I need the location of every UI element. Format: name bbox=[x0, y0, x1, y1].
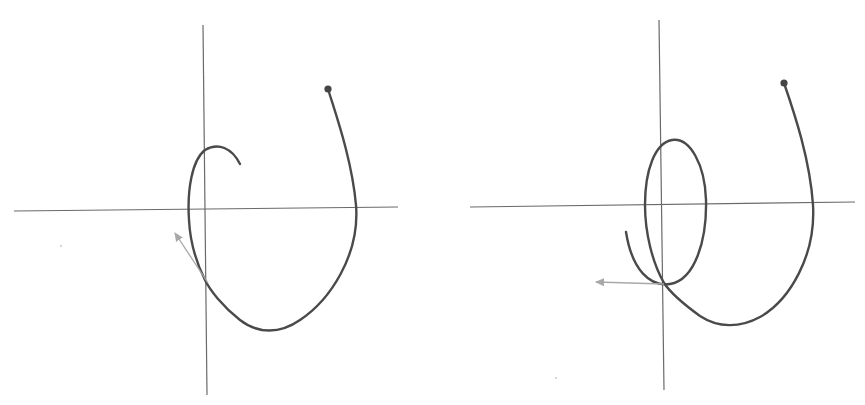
right-start-dot bbox=[780, 79, 787, 86]
left-start-dot bbox=[324, 85, 331, 92]
right-curve-inner-loop bbox=[626, 140, 706, 285]
right-speck bbox=[555, 377, 557, 379]
left-panel bbox=[14, 25, 398, 395]
right-panel bbox=[470, 20, 855, 390]
left-y-axis bbox=[203, 25, 207, 395]
right-x-axis bbox=[470, 202, 855, 207]
left-x-axis bbox=[14, 207, 398, 211]
diagram-canvas bbox=[0, 0, 865, 405]
left-speck bbox=[60, 245, 62, 247]
left-curve bbox=[189, 89, 357, 331]
